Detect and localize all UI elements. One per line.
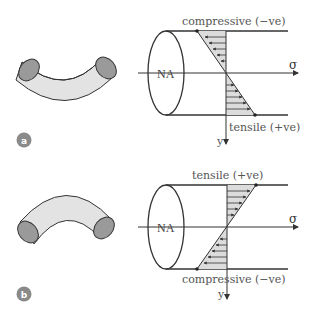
svg-text:a: a — [21, 136, 27, 146]
y-axis-label-b: y — [217, 288, 225, 301]
bottom-stress-label-b: compressive (−ve) — [182, 273, 286, 286]
top-stress-label-b: tensile (+ve) — [192, 169, 263, 182]
sigma-axis-label-b: σ — [289, 212, 297, 226]
stress-point-bottom-b — [195, 267, 199, 271]
neutral-axis-label-b: NA — [157, 221, 175, 235]
top-stress-label-a: compressive (−ve) — [182, 15, 286, 28]
panel-badge-a: a — [17, 133, 32, 148]
bent-tube-b — [13, 195, 118, 246]
bent-tube-a — [14, 53, 120, 100]
svg-text:b: b — [21, 290, 28, 300]
stress-point-bottom-a — [253, 113, 257, 117]
stress-point-top-b — [254, 183, 258, 187]
stress-point-top-a — [195, 29, 199, 33]
bottom-stress-label-a: tensile (+ve) — [229, 121, 300, 134]
panel-a: a NA σ y — [14, 15, 300, 148]
bending-stress-diagram: a NA σ y — [0, 0, 313, 317]
panel-badge-b: b — [17, 287, 32, 302]
panel-b: b NA σ y — [13, 169, 298, 302]
sigma-axis-label-a: σ — [289, 58, 297, 72]
neutral-axis-label-a: NA — [157, 67, 175, 81]
y-axis-label-a: y — [216, 135, 224, 148]
